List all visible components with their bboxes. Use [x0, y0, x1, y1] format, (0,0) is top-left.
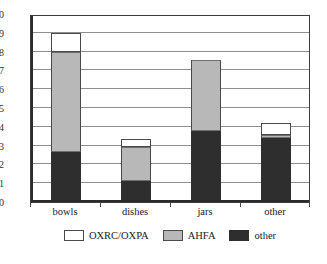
- x-tick-mark: [170, 203, 171, 207]
- x-tick-mark: [100, 203, 101, 207]
- bar-segment-oxrc-oxpa: [121, 139, 151, 146]
- x-tick-label-jars: jars: [165, 206, 245, 218]
- legend-label: OXRC/OXPA: [89, 230, 149, 241]
- y-tick-label: 5: [0, 104, 4, 114]
- legend-swatch: [64, 230, 84, 241]
- y-tick-label: 0: [0, 198, 4, 208]
- y-tick-label: 7: [0, 66, 4, 76]
- y-tick-label: 10: [0, 10, 4, 20]
- bar-segment-oxrc-oxpa: [261, 123, 291, 135]
- cropped-caption-sliver: [0, 0, 327, 4]
- bar-jars: [191, 60, 221, 202]
- bar-segment-other: [51, 152, 81, 202]
- bar-segment-other: [191, 131, 221, 202]
- y-tick-label: 6: [0, 85, 4, 95]
- plot-area: [30, 15, 310, 203]
- y-tick-label: 8: [0, 48, 4, 58]
- legend-item-ahfa: AHFA: [163, 230, 216, 241]
- legend-item-other: other: [229, 230, 276, 241]
- chart-legend: OXRC/OXPAAHFAother: [30, 230, 310, 241]
- legend-swatch: [229, 230, 249, 241]
- y-tick-label: 9: [0, 29, 4, 39]
- stacked-bar-chart: 012345678910 bowlsdishesjarsother OXRC/O…: [0, 0, 327, 264]
- legend-item-oxrc-oxpa: OXRC/OXPA: [64, 230, 149, 241]
- bar-dishes: [121, 139, 151, 202]
- legend-swatch: [163, 230, 183, 241]
- x-tick-label-bowls: bowls: [25, 206, 105, 218]
- bar-other: [261, 123, 291, 202]
- bar-bowls: [51, 33, 81, 202]
- legend-label: other: [254, 230, 276, 241]
- y-axis-line: [31, 16, 33, 202]
- bar-segment-ahfa: [121, 147, 151, 182]
- y-tick-label: 3: [0, 142, 4, 152]
- y-tick-label: 1: [0, 179, 4, 189]
- legend-label: AHFA: [188, 230, 216, 241]
- x-tick-mark: [309, 203, 310, 207]
- x-tick-mark: [240, 203, 241, 207]
- bar-segment-other: [121, 181, 151, 202]
- bar-segment-ahfa: [51, 52, 81, 153]
- bar-segment-oxrc-oxpa: [51, 33, 81, 52]
- x-tick-label-other: other: [235, 206, 315, 218]
- x-tick-label-dishes: dishes: [95, 206, 175, 218]
- x-axis-line: [31, 200, 309, 202]
- y-tick-label: 4: [0, 123, 4, 133]
- bar-segment-ahfa: [191, 60, 221, 131]
- bar-segment-other: [261, 138, 291, 202]
- x-tick-mark: [30, 203, 31, 207]
- y-tick-label: 2: [0, 160, 4, 170]
